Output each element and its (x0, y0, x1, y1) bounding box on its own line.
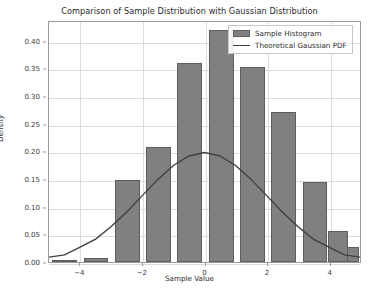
y-tick-label: 0.05 (24, 231, 40, 239)
legend-item-histogram: Sample Histogram (233, 29, 347, 38)
legend-line-icon (233, 45, 250, 46)
y-axis: 0.000.050.100.150.200.250.300.350.40 (0, 21, 46, 263)
y-tick-label: 0.35 (24, 65, 40, 73)
y-tick-label: 0.00 (24, 259, 40, 267)
x-tick-mark (205, 263, 206, 266)
x-tick-mark (267, 263, 268, 266)
chart-title: Comparison of Sample Distribution with G… (0, 6, 379, 16)
legend-label-gaussian: Theoretical Gaussian PDF (255, 41, 347, 50)
plot-area (48, 21, 361, 263)
gaussian-pdf-curve (49, 22, 360, 262)
legend-patch-icon (233, 30, 250, 37)
chart-figure: Comparison of Sample Distribution with G… (0, 0, 379, 296)
y-tick-label: 0.10 (24, 204, 40, 212)
x-tick-mark (142, 263, 143, 266)
y-tick-mark (43, 180, 46, 181)
y-tick-mark (43, 69, 46, 70)
y-tick-mark (43, 263, 46, 264)
y-tick-mark (43, 97, 46, 98)
y-tick-label: 0.30 (24, 93, 40, 101)
y-tick-mark (43, 207, 46, 208)
y-tick-label: 0.20 (24, 148, 40, 156)
x-tick-mark (330, 263, 331, 266)
y-tick-label: 0.15 (24, 176, 40, 184)
y-axis-label: Density (0, 115, 5, 142)
y-tick-mark (43, 124, 46, 125)
x-tick-mark (79, 263, 80, 266)
y-tick-label: 0.25 (24, 121, 40, 129)
y-tick-label: 0.40 (24, 38, 40, 46)
chart-legend: Sample Histogram Theoretical Gaussian PD… (228, 25, 353, 54)
y-tick-mark (43, 41, 46, 42)
legend-label-histogram: Sample Histogram (255, 29, 322, 38)
legend-item-gaussian: Theoretical Gaussian PDF (233, 41, 347, 50)
x-axis-label: Sample Value (0, 274, 379, 283)
y-tick-mark (43, 235, 46, 236)
y-tick-mark (43, 152, 46, 153)
